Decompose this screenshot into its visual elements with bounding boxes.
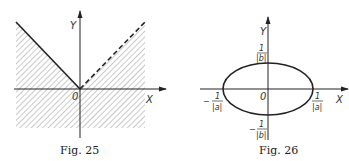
svg-text:|a|: |a| [212,103,222,112]
svg-text:1: 1 [315,92,320,101]
y-axis-label: Y [260,26,267,37]
svg-text:1: 1 [259,120,264,129]
svg-text:1: 1 [259,44,264,53]
x-pos-intercept-label: 1 |a| [312,92,323,112]
origin-label: 0 [260,91,266,102]
x-axis-label: X [335,94,344,105]
figure-caption: Fig. 26 [259,144,298,157]
y-pos-intercept-label: 1 |b| [256,44,267,63]
svg-text:|b|: |b| [256,54,266,63]
x-neg-intercept-label: − 1 |a| [203,92,223,112]
origin-label: 0 [72,91,78,102]
figure-25: Y X 0 Fig. 25 [14,11,166,157]
svg-text:−: − [203,97,210,106]
svg-text:−: − [249,125,256,134]
svg-text:|a|: |a| [312,103,322,112]
svg-text:|b|: |b| [256,131,266,140]
figure-caption: Fig. 25 [60,144,99,157]
figure-26: Y X 0 1 |b| − 1 |b| − 1 |a| 1 |a| Fig. [200,17,348,157]
svg-text:1: 1 [215,92,220,101]
x-axis-label: X [145,94,154,105]
y-axis-label: Y [70,20,77,31]
y-neg-intercept-label: − 1 |b| [249,120,267,140]
figures-canvas: Y X 0 Fig. 25 Y X 0 1 |b| − 1 |b| − 1 |a… [0,0,349,161]
